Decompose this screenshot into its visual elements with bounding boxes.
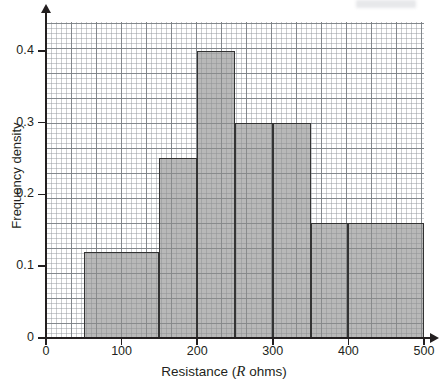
histogram-bar: [311, 223, 349, 338]
histogram-bar: [235, 123, 273, 338]
x-tick-label: 400: [323, 344, 373, 358]
y-tick-mark: [38, 50, 45, 52]
y-tick-mark: [38, 194, 45, 196]
histogram-chart: 00.10.20.30.4 0100200300400500 Frequency…: [0, 0, 448, 383]
x-tick-label: 100: [97, 344, 147, 358]
histogram-bar: [273, 123, 311, 338]
y-axis-title: Frequency density: [9, 91, 24, 261]
plot-area: [46, 22, 424, 338]
x-axis-arrow-icon: [430, 333, 439, 343]
page-scan-artifact: [356, 0, 416, 8]
x-axis-title: Resistance (R ohms): [0, 363, 448, 380]
x-axis-line: [46, 337, 435, 339]
x-tick-label: 500: [399, 344, 448, 358]
y-tick-label: 0: [0, 330, 34, 344]
histogram-bar: [84, 252, 160, 338]
x-tick-label: 200: [172, 344, 222, 358]
y-tick-mark: [38, 337, 45, 339]
x-tick-label: 300: [248, 344, 298, 358]
histogram-bar: [197, 51, 235, 338]
x-axis-title-pre: Resistance (: [161, 364, 236, 379]
x-axis-title-post: ohms): [245, 364, 286, 379]
histogram-bar: [348, 223, 424, 338]
y-axis-arrow-icon: [41, 4, 51, 13]
x-tick-label: 0: [21, 344, 71, 358]
y-tick-mark: [38, 265, 45, 267]
y-tick-mark: [38, 122, 45, 124]
y-tick-label: 0.4: [0, 43, 34, 57]
histogram-bar: [159, 158, 197, 338]
y-axis-line: [45, 10, 47, 340]
